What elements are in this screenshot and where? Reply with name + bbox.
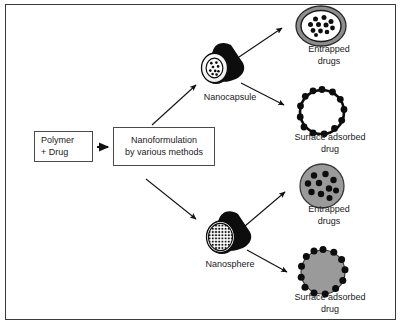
label-surface-adsorbed-capsule: Surface adsorbed drug [275, 132, 385, 155]
arrow-nanoformulation-to-nanosphere [146, 179, 196, 219]
nanocapsule-icon [202, 43, 245, 84]
output-surface-adsorbed-capsule-icon [297, 86, 348, 137]
label-entrapped-capsule: Entrapped drugs [281, 44, 377, 67]
polymer-drug-line2: + Drug [41, 147, 68, 159]
label-entrapped-capsule-line1: Entrapped [281, 44, 377, 56]
label-entrapped-sphere-line2: drugs [281, 216, 377, 228]
arrow-nanosphere-to-entrapped [245, 192, 285, 226]
label-surface-adsorbed-capsule-line1: Surface adsorbed [275, 132, 385, 144]
label-nanocapsule: Nanocapsule [188, 92, 272, 104]
output-entrapped-sphere-icon [300, 164, 344, 208]
polymer-drug-line1: Polymer [41, 135, 74, 147]
label-nanosphere: Nanosphere [188, 259, 272, 271]
arrow-nanocapsule-to-entrapped [239, 28, 282, 57]
label-surface-adsorbed-sphere: Surface adsorbed drug [275, 292, 385, 315]
label-surface-adsorbed-sphere-line2: drug [275, 304, 385, 316]
nanosphere-icon [207, 211, 252, 254]
node-nanoformulation[interactable]: Nanoformulation by various methods [113, 127, 215, 166]
arrow-nanoformulation-to-nanocapsule [152, 85, 196, 125]
label-entrapped-sphere: Entrapped drugs [281, 204, 377, 227]
nanoformulation-line2: by various methods [125, 147, 203, 159]
figure-root: Polymer + Drug Nanoformulation by variou… [0, 0, 402, 326]
label-surface-adsorbed-capsule-line2: drug [275, 144, 385, 156]
node-polymer-drug[interactable]: Polymer + Drug [34, 131, 93, 162]
output-entrapped-capsule-icon [296, 6, 346, 46]
nanoformulation-line1: Nanoformulation [131, 135, 197, 147]
output-surface-adsorbed-sphere-icon [298, 246, 349, 298]
label-entrapped-capsule-line2: drugs [281, 56, 377, 68]
label-entrapped-sphere-line1: Entrapped [281, 204, 377, 216]
label-surface-adsorbed-sphere-line1: Surface adsorbed [275, 292, 385, 304]
